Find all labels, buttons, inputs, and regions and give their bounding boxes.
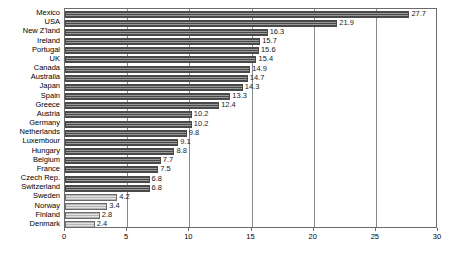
x-axis-tick-label: 30 xyxy=(433,232,441,241)
x-axis-tick-label: 0 xyxy=(62,232,66,241)
bar-row: 27.7 xyxy=(65,9,436,18)
bar-row: 3.4 xyxy=(65,202,436,211)
bar-row: 9.1 xyxy=(65,137,436,146)
category-label: France xyxy=(37,164,60,173)
category-label: Hungary xyxy=(32,146,60,155)
bar xyxy=(65,11,409,18)
bar xyxy=(65,203,107,210)
x-axis-tick-label: 15 xyxy=(246,232,254,241)
category-axis-labels: MexicoUSANew Z'landIrelandPortugalUKCana… xyxy=(0,8,62,228)
category-label: Sweden xyxy=(33,191,60,200)
bar-row: 15.4 xyxy=(65,55,436,64)
x-axis-tick xyxy=(126,228,127,231)
bar-row: 10.2 xyxy=(65,119,436,128)
bar-value-label: 8.8 xyxy=(176,146,186,156)
category-label: Ireland xyxy=(37,36,60,45)
bar-row: 2.8 xyxy=(65,211,436,220)
bar xyxy=(65,148,174,155)
x-axis-tick-label: 25 xyxy=(371,232,379,241)
category-label: Spain xyxy=(41,91,60,100)
category-label: Austria xyxy=(37,109,60,118)
bar-row: 14.3 xyxy=(65,82,436,91)
category-label: Finland xyxy=(35,210,60,219)
bar-row: 7.7 xyxy=(65,156,436,165)
bar-value-label: 4.2 xyxy=(119,192,129,202)
category-label: Australia xyxy=(31,72,60,81)
bar-row: 15.7 xyxy=(65,37,436,46)
bar xyxy=(65,121,192,128)
category-label: New Z'land xyxy=(23,26,60,35)
bar-value-label: 14.3 xyxy=(245,82,260,92)
category-label: Japan xyxy=(40,81,60,90)
bar xyxy=(65,212,100,219)
bar-row: 4.2 xyxy=(65,192,436,201)
bar xyxy=(65,102,219,109)
category-label: Belgium xyxy=(33,155,60,164)
x-axis: 051015202530 xyxy=(64,228,437,252)
bar-row: 21.9 xyxy=(65,18,436,27)
bar-row: 12.4 xyxy=(65,101,436,110)
category-label: Canada xyxy=(34,63,60,72)
category-label: USA xyxy=(45,17,60,26)
bar xyxy=(65,29,268,36)
bar-row: 16.3 xyxy=(65,27,436,36)
bar-chart: MexicoUSANew Z'landIrelandPortugalUKCana… xyxy=(0,0,451,253)
category-label: Denmark xyxy=(30,219,60,228)
bar xyxy=(65,166,158,173)
category-label: Greece xyxy=(35,100,60,109)
category-label: UK xyxy=(50,54,60,63)
bar-rows: 27.721.916.315.715.615.414.914.714.313.3… xyxy=(65,9,436,227)
bar xyxy=(65,66,250,73)
bar-value-label: 27.7 xyxy=(411,9,426,19)
category-label: Portugal xyxy=(32,45,60,54)
bar xyxy=(65,56,256,63)
x-axis-tick xyxy=(64,228,65,231)
bar-value-label: 6.8 xyxy=(152,183,162,193)
category-label: Luxembour xyxy=(22,136,60,145)
bar xyxy=(65,93,230,100)
bar xyxy=(65,185,150,192)
bar-row: 10.2 xyxy=(65,110,436,119)
bar-row: 13.3 xyxy=(65,92,436,101)
category-label: Switzerland xyxy=(21,182,60,191)
x-axis-tick xyxy=(188,228,189,231)
bar-value-label: 12.4 xyxy=(221,100,236,110)
bar xyxy=(65,139,178,146)
bar-row: 15.6 xyxy=(65,46,436,55)
bar-value-label: 21.9 xyxy=(339,18,354,28)
x-axis-tick-label: 10 xyxy=(184,232,192,241)
category-label: Mexico xyxy=(36,8,60,17)
x-axis-tick-label: 5 xyxy=(124,232,128,241)
x-axis-tick-label: 20 xyxy=(308,232,316,241)
category-label: Netherlands xyxy=(20,127,60,136)
bar xyxy=(65,38,260,45)
bar-row: 8.8 xyxy=(65,147,436,156)
bar-row: 6.8 xyxy=(65,174,436,183)
bar xyxy=(65,157,161,164)
category-label: Germany xyxy=(29,118,60,127)
category-label: Norway xyxy=(35,201,60,210)
x-axis-tick xyxy=(313,228,314,231)
x-axis-tick xyxy=(251,228,252,231)
x-axis-tick xyxy=(375,228,376,231)
plot-area: 27.721.916.315.715.615.414.914.714.313.3… xyxy=(64,8,437,228)
bar xyxy=(65,130,187,137)
bar xyxy=(65,47,259,54)
x-axis-tick xyxy=(437,228,438,231)
category-label: Czech Rep. xyxy=(21,173,60,182)
bar xyxy=(65,194,117,201)
bar-row: 7.5 xyxy=(65,165,436,174)
bar xyxy=(65,111,192,118)
bar xyxy=(65,20,337,27)
bar xyxy=(65,84,243,91)
bar xyxy=(65,176,150,183)
bar xyxy=(65,75,248,82)
bar-row: 9.8 xyxy=(65,128,436,137)
